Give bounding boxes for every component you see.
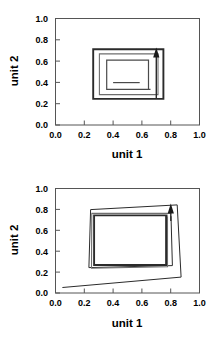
trajectory-middle-loop xyxy=(92,213,172,268)
x-tick-label: 0.2 xyxy=(78,298,91,308)
chart-panel-top: 0.0 0.2 0.4 0.6 0.8 1.0 0.0 0.2 0.4 0.6 … xyxy=(0,0,220,170)
trajectory-entry-outer-loop xyxy=(62,205,181,288)
x-axis-title: unit 1 xyxy=(112,317,143,329)
x-axis-title: unit 1 xyxy=(112,148,143,160)
y-tick-label: 0.2 xyxy=(35,99,48,109)
trajectory-inner-loop xyxy=(107,60,151,89)
y-axis-ticks xyxy=(56,19,61,126)
x-axis-ticks xyxy=(56,121,200,126)
x-tick-label: 0.6 xyxy=(136,130,149,140)
y-axis-title: unit 2 xyxy=(8,56,20,87)
x-tick-label: 0.8 xyxy=(164,130,177,140)
x-tick-label: 0.4 xyxy=(107,298,120,308)
x-tick-label: 1.0 xyxy=(193,298,206,308)
y-tick-label: 1.0 xyxy=(35,184,48,194)
direction-arrow-icon xyxy=(168,204,174,222)
trajectory-inner-loop xyxy=(94,215,167,265)
y-tick-label: 0.8 xyxy=(35,205,48,215)
y-tick-label: 0.4 xyxy=(35,247,48,257)
chart-panel-bottom: 0.0 0.2 0.4 0.6 0.8 1.0 0.0 0.2 0.4 0.6 … xyxy=(0,170,220,340)
x-tick-label: 0.4 xyxy=(107,130,120,140)
y-tick-label: 0.6 xyxy=(35,226,48,236)
x-tick-label: 0.0 xyxy=(49,130,62,140)
x-axis-ticks xyxy=(56,289,200,294)
bottom-panel-svg: 0.0 0.2 0.4 0.6 0.8 1.0 0.0 0.2 0.4 0.6 … xyxy=(0,170,220,340)
y-axis-ticks xyxy=(56,189,61,294)
y-axis-title: unit 2 xyxy=(8,225,20,256)
figure-container: 0.0 0.2 0.4 0.6 0.8 1.0 0.0 0.2 0.4 0.6 … xyxy=(0,0,220,340)
y-tick-label: 0.2 xyxy=(35,268,48,278)
x-tick-label: 0.6 xyxy=(136,298,149,308)
y-tick-label: 1.0 xyxy=(35,14,48,24)
trajectory-outer-loop xyxy=(93,49,163,99)
y-tick-label: 0.8 xyxy=(35,35,48,45)
x-tick-label: 0.0 xyxy=(49,298,62,308)
top-panel-svg: 0.0 0.2 0.4 0.6 0.8 1.0 0.0 0.2 0.4 0.6 … xyxy=(0,0,220,170)
y-tick-label: 0.6 xyxy=(35,57,48,67)
y-tick-label: 0.0 xyxy=(35,288,48,298)
y-tick-label: 0.0 xyxy=(35,120,48,130)
x-tick-label: 1.0 xyxy=(193,130,206,140)
x-tick-label: 0.2 xyxy=(78,130,91,140)
y-tick-label: 0.4 xyxy=(35,78,48,88)
plot-frame xyxy=(56,19,200,126)
x-tick-label: 0.8 xyxy=(164,298,177,308)
